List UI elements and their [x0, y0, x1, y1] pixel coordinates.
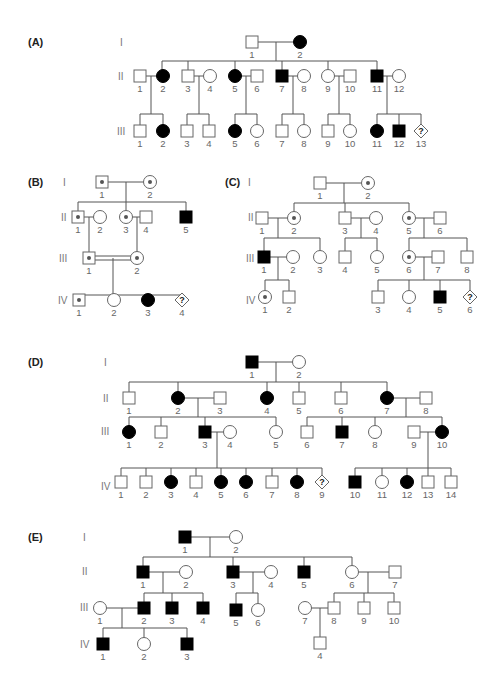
affected-male-square-icon: [181, 638, 193, 650]
individual-number: 8: [372, 439, 377, 450]
individual-a-ii-5: 5: [229, 70, 242, 95]
individual-number: 8: [423, 405, 428, 416]
individual-number: 14: [446, 489, 457, 500]
individual-d-ii-4: 4: [261, 392, 274, 417]
individual-a-ii-12: 12: [393, 70, 406, 95]
female-circle-icon: [287, 251, 300, 264]
individual-e-i-2: 2: [230, 531, 243, 556]
male-square-icon: [339, 251, 351, 263]
individual-number: 3: [317, 264, 322, 275]
individual-a-iii-7: 7: [276, 125, 288, 149]
individual-c-iii-7: 7: [432, 251, 444, 275]
female-circle-icon: [252, 604, 265, 617]
individual-number: 2: [297, 49, 302, 60]
individual-e-iv-2: 2: [138, 638, 151, 663]
individual-number: 5: [183, 224, 188, 235]
pedigree-a: (A)IIIIII1212345678910111212345678910111…: [28, 36, 428, 150]
affected-male-square-icon: [180, 211, 192, 223]
individual-number: 7: [384, 405, 389, 416]
female-circle-icon: [370, 212, 383, 225]
female-circle-icon: [298, 125, 311, 138]
individual-d-iv-10: 10: [349, 476, 361, 500]
generation-label: I: [83, 532, 86, 543]
male-square-icon: [181, 125, 193, 137]
individual-e-ii-5: 5: [298, 566, 310, 590]
individual-number: 2: [286, 304, 291, 315]
male-square-icon: [358, 602, 370, 614]
individual-e-iii-8: 8: [328, 602, 340, 626]
male-square-icon: [283, 291, 295, 303]
individual-number: 6: [304, 439, 309, 450]
individual-c-ii-1: 1: [256, 212, 268, 236]
male-square-icon: [432, 251, 444, 263]
generation-label: III: [101, 426, 109, 437]
individual-number: 9: [411, 439, 416, 450]
individual-c-iii-6: 6: [403, 251, 416, 276]
male-square-icon: [214, 392, 226, 404]
individual-number: 2: [147, 189, 152, 200]
male-square-icon: [190, 476, 202, 488]
individual-number: 10: [437, 439, 448, 450]
affected-female-circle-icon: [157, 125, 170, 138]
individual-d-iv-6: 6: [240, 476, 253, 501]
individual-d-ii-6: 6: [335, 392, 347, 416]
individual-number: 1: [249, 49, 254, 60]
individual-number: 7: [392, 579, 397, 590]
individual-number: 1: [317, 190, 322, 201]
individual-number: 10: [389, 615, 400, 626]
affected-male-square-icon: [137, 566, 149, 578]
pedigree-e: (E)IIIIIIIV121234567123456789101234: [28, 531, 401, 663]
generation-label: II: [248, 212, 254, 223]
individual-b-iii-2: 2: [131, 252, 144, 277]
individual-number: 4: [406, 304, 411, 315]
individual-number: 3: [123, 224, 128, 235]
individual-number: 10: [350, 489, 361, 500]
individual-number: 12: [394, 138, 405, 149]
individual-number: 2: [97, 224, 102, 235]
individual-a-i-1: 1: [246, 36, 258, 60]
individual-a-iii-6: 6: [251, 125, 264, 150]
individual-number: 2: [158, 439, 163, 450]
individual-c-iii-5: 5: [371, 251, 384, 276]
individual-c-i-2: 2: [362, 177, 375, 202]
panel-label: (D): [28, 356, 44, 368]
individual-number: 4: [317, 650, 322, 661]
individual-e-iii-2: 2: [138, 602, 150, 626]
individual-number: 2: [141, 615, 146, 626]
individual-number: 2: [141, 651, 146, 662]
individual-a-ii-2: 2: [157, 70, 170, 95]
affected-female-circle-icon: [401, 476, 414, 489]
individual-number: 9: [319, 489, 324, 500]
individual-b-iv-1: 1: [73, 294, 85, 318]
individual-number: 6: [338, 405, 343, 416]
individual-a-ii-6: 6: [251, 70, 263, 94]
individual-number: 2: [160, 138, 165, 149]
male-square-icon: [246, 36, 258, 48]
individual-d-iii-10: 10: [436, 426, 449, 451]
individual-number: 9: [361, 615, 366, 626]
individual-a-iii-3: 3: [181, 125, 193, 149]
individual-a-ii-8: 8: [298, 70, 311, 95]
individual-number: 3: [217, 405, 222, 416]
individual-number: 1: [137, 83, 142, 94]
generation-label: III: [80, 602, 88, 613]
individual-number: 3: [375, 304, 380, 315]
carrier-dot-icon: [100, 180, 104, 184]
individual-c-i-1: 1: [314, 177, 326, 201]
male-square-icon: [335, 392, 347, 404]
individual-number: 13: [416, 138, 427, 149]
individual-number: 2: [290, 264, 295, 275]
affected-female-circle-icon: [229, 125, 242, 138]
individual-e-i-1: 1: [179, 531, 191, 555]
individual-e-iv-1: 1: [97, 638, 109, 662]
generation-label: II: [61, 212, 67, 223]
affected-male-square-icon: [166, 602, 178, 614]
generation-label: II: [82, 566, 88, 577]
generation-label: IV: [101, 481, 111, 492]
individual-number: 3: [168, 489, 173, 500]
affected-female-circle-icon: [157, 70, 170, 83]
individual-b-iv-3: 3: [142, 294, 155, 319]
carrier-dot-icon: [148, 180, 152, 184]
individual-d-iv-14: 14: [445, 476, 457, 500]
individual-number: 6: [255, 617, 260, 628]
